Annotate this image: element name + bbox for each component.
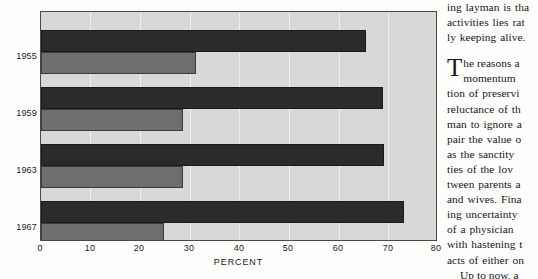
text-line: acts of either on [447, 253, 538, 268]
text-line: reluctance of th [447, 102, 538, 117]
y-axis-labels: 1955 1959 1963 1967 [0, 11, 37, 241]
text-line: activities lies rat [447, 15, 538, 30]
x-axis-tick-label: 50 [283, 243, 293, 253]
y-axis-tick-label: 1959 [1, 108, 37, 118]
y-axis-tick-label: 1963 [1, 165, 37, 175]
x-axis-tick-label: 30 [184, 243, 194, 253]
x-axis-tick-label: 60 [333, 243, 343, 253]
scanned-page: 1955 1959 1963 1967 [0, 0, 538, 279]
x-axis-tick-label: 80 [431, 243, 441, 253]
text-line: ties of the lov [447, 162, 538, 177]
x-axis-tick-label: 0 [37, 243, 42, 253]
bar-dark-1967 [41, 201, 404, 223]
x-axis-title: PERCENT [40, 257, 437, 267]
text-line: ing layman is tha [447, 0, 538, 15]
text-line: tion of preservi [447, 86, 538, 101]
plot-area [40, 11, 437, 241]
bar-dark-1963 [41, 144, 384, 166]
bar-gray-1959 [41, 109, 183, 131]
bar-gray-1963 [41, 166, 183, 188]
y-axis-tick-label: 1967 [1, 222, 37, 232]
text-line: as the sanctity [447, 147, 538, 162]
text-line: ly keeping alive. [447, 30, 538, 45]
bar-gray-1955 [41, 52, 196, 74]
text-line: ing uncertainty [447, 207, 538, 222]
bar-dark-1959 [41, 87, 383, 109]
text-line: and wives. Fina [447, 192, 538, 207]
x-axis-tick-label: 20 [134, 243, 144, 253]
text-line: Up to now, a [447, 268, 538, 279]
bar-dark-1955 [41, 30, 366, 52]
body-text-column: ing layman is tha activities lies rat ly… [447, 0, 538, 279]
text-line: with hastening t [447, 237, 538, 252]
x-axis-tick-label: 10 [85, 243, 95, 253]
text-line: man to ignore a [447, 117, 538, 132]
drop-cap-letter: T [447, 57, 463, 78]
x-axis-labels: 0 10 20 30 40 50 60 70 80 [0, 243, 440, 257]
y-axis-tick-label: 1955 [1, 51, 37, 61]
text-line: pair the value o [447, 132, 538, 147]
x-axis-tick-label: 40 [234, 243, 244, 253]
x-axis-tick-label: 70 [383, 243, 393, 253]
paragraph-with-dropcap: T he reasons a momentum [447, 56, 538, 86]
bar-chart-figure: 1955 1959 1963 1967 [0, 0, 440, 279]
text-line: tween parents a [447, 177, 538, 192]
text-line: of a physician [447, 222, 538, 237]
bar-gray-1967 [41, 223, 164, 241]
